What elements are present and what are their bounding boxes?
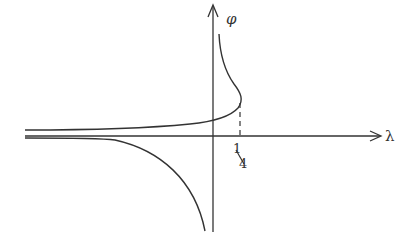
y-axis-label: φ	[226, 10, 237, 28]
diagram-canvas: λ φ 1 4	[0, 0, 417, 247]
tick-denominator: 4	[239, 156, 247, 171]
tick-label-quarter: 1 4	[233, 141, 247, 171]
tick-numerator: 1	[233, 141, 241, 156]
lower-branch-curve	[25, 138, 205, 231]
x-axis	[25, 131, 381, 141]
upper-branch-curve	[25, 34, 241, 130]
x-axis-label: λ	[385, 127, 395, 145]
y-axis	[208, 5, 218, 232]
